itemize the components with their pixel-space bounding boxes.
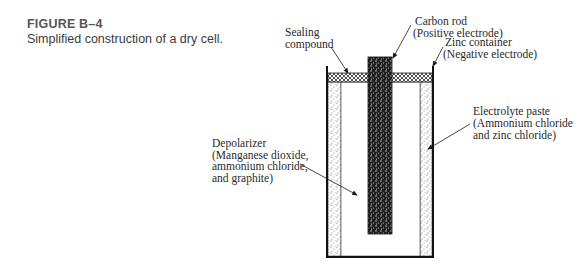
carbon-arrow [393,25,411,58]
zinc-arrow [433,47,443,66]
label-depolarizer: Depolarizer (Manganese dioxide, ammonium… [212,137,311,185]
electrolyte-arrow [428,124,470,149]
label-zinc-container: Zinc container (Negative electrode) [443,36,537,61]
label-electrolyte: Electrolyte paste (Ammonium chloride and… [473,105,576,142]
sealing-arrow [331,47,348,73]
electrolyte-paste-left [328,82,341,256]
label-sealing: Sealing compound [285,26,334,51]
carbon-rod [368,57,392,234]
dry-cell-diagram: Sealing compound Carbon rod (Positive el… [0,0,588,268]
electrolyte-paste-right [420,82,432,256]
